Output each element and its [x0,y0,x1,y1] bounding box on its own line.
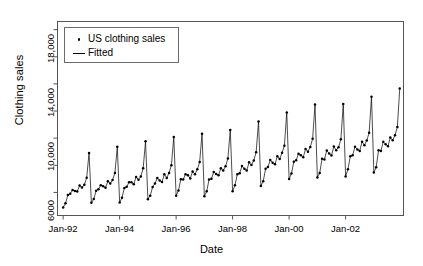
x-axis-tick-label: Jan-02 [316,223,376,234]
data-point [135,176,138,179]
data-point [314,103,317,106]
data-point [373,171,376,174]
data-point [297,153,300,156]
data-point [198,161,201,164]
data-point [248,161,251,164]
y-axis-title: Clothing sales [13,30,25,150]
data-point [302,156,305,159]
data-point [158,179,161,182]
data-point [95,189,98,192]
data-point [177,189,180,192]
data-point [375,166,378,169]
data-point [255,151,258,154]
data-point [191,170,194,173]
data-point [262,180,265,183]
data-point [276,155,279,158]
data-point [366,139,369,142]
data-point [151,186,154,189]
data-point [384,143,387,146]
data-point [337,146,340,149]
data-point [85,177,88,180]
data-point [260,185,263,188]
data-point [311,138,314,141]
data-point [142,167,145,170]
data-point [363,144,366,147]
data-point [182,178,185,181]
data-point [344,175,347,178]
x-axis-tick-label: Jan-94 [90,223,150,234]
data-point [100,184,103,187]
data-point [111,179,114,182]
data-point [97,188,100,191]
observed-series-points [62,87,401,209]
data-point [283,145,286,148]
data-point [220,167,223,170]
data-point [215,173,218,176]
data-point [140,175,143,178]
data-point [67,194,70,197]
data-point [227,157,230,160]
data-point [149,194,152,197]
data-point [187,174,190,177]
data-point [128,181,131,184]
data-point [90,201,93,204]
x-axis-title: Date [0,243,423,255]
data-point [144,140,147,143]
chart-figure: Clothing sales Date 600010,00014,00018,0… [0,0,423,266]
data-point [156,177,159,180]
data-point [62,206,65,209]
data-point [238,172,241,175]
data-point [293,160,296,163]
data-point [377,149,380,152]
x-axis-tick-label: Jan-96 [146,223,206,234]
data-point [274,163,277,166]
data-point [81,186,84,189]
data-point [71,189,74,192]
data-point [351,154,354,157]
data-point [173,136,176,139]
data-point [194,173,197,176]
data-point [269,159,272,162]
data-point [290,172,293,175]
data-point [391,139,394,142]
data-point [267,166,270,169]
data-point [368,132,371,135]
data-point [286,111,289,114]
data-point [203,195,206,198]
data-point [130,181,133,184]
data-point [382,141,385,144]
data-point [147,198,150,201]
data-point [321,158,324,161]
data-point [125,186,128,189]
data-point [205,190,208,193]
line-marker-icon [70,44,88,62]
data-point [335,149,338,152]
data-point [347,168,350,171]
y-axis-tick-label: 14,000 [44,82,55,122]
data-point [74,190,77,193]
data-point [288,178,291,181]
data-point [184,173,187,176]
data-point [102,185,105,188]
data-point [316,176,319,179]
data-point [323,158,326,161]
data-point [356,148,359,151]
data-point [307,150,310,153]
x-axis-tick-label: Jan-00 [259,223,319,234]
data-point [389,136,392,139]
data-point [107,180,110,183]
data-point [163,173,166,176]
data-point [133,183,136,186]
data-point [175,195,178,198]
data-point [196,168,199,171]
legend-item-label: US clothing sales [88,32,165,46]
data-point [168,172,171,175]
x-axis-tick-label: Jan-98 [203,223,263,234]
data-point [309,146,312,149]
data-point [69,192,72,195]
data-point [180,178,183,181]
data-point [370,95,373,98]
data-point [281,151,284,154]
data-point [328,152,331,155]
data-point [330,154,333,157]
